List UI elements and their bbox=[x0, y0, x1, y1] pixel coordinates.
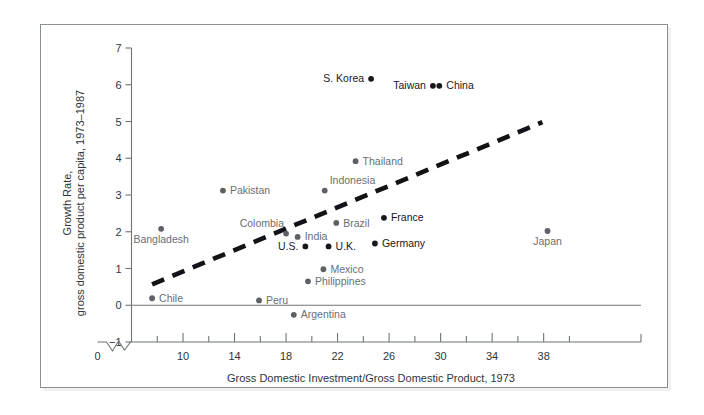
data-point-marker[interactable] bbox=[256, 298, 262, 304]
y-tick-label: 2 bbox=[115, 226, 121, 238]
data-point-marker[interactable] bbox=[295, 234, 301, 240]
y-axis-title-line1: Growth Rate, bbox=[61, 171, 73, 236]
y-tick-label: 0 bbox=[115, 299, 121, 311]
scatter-plot: −10123456701014182226303438Gross Domesti… bbox=[41, 25, 669, 389]
data-point[interactable]: Indonesia bbox=[322, 174, 376, 194]
data-point[interactable]: Mexico bbox=[321, 263, 364, 275]
data-point-label: Argentina bbox=[301, 308, 346, 320]
y-tick-label: 3 bbox=[115, 189, 121, 201]
y-axis-title-line2: gross domestic product per capita, 1973–… bbox=[74, 90, 86, 316]
x-tick-label: 10 bbox=[177, 350, 189, 362]
data-point-label: S. Korea bbox=[323, 72, 364, 84]
data-point-label: Mexico bbox=[330, 263, 363, 275]
data-point[interactable]: Colombia bbox=[240, 217, 289, 237]
data-point-marker[interactable] bbox=[283, 231, 289, 237]
data-point-label: China bbox=[446, 79, 474, 91]
data-point-marker[interactable] bbox=[305, 278, 311, 284]
y-tick-label: 7 bbox=[115, 42, 121, 54]
x-tick-label: 22 bbox=[331, 350, 343, 362]
data-point[interactable]: Thailand bbox=[353, 155, 403, 167]
data-point[interactable]: U.K. bbox=[326, 240, 356, 252]
data-point[interactable]: Pakistan bbox=[220, 184, 270, 196]
data-point-label: France bbox=[391, 211, 424, 223]
x-tick-label: 26 bbox=[383, 350, 395, 362]
data-point-marker[interactable] bbox=[333, 220, 339, 226]
data-point-label: India bbox=[305, 230, 328, 242]
data-point-marker[interactable] bbox=[220, 188, 226, 194]
data-point[interactable]: Philippines bbox=[305, 275, 366, 287]
data-point[interactable]: India bbox=[295, 230, 328, 242]
data-point-label: Taiwan bbox=[393, 79, 426, 91]
data-point-marker[interactable] bbox=[321, 266, 327, 272]
data-point-marker[interactable] bbox=[158, 226, 164, 232]
data-point-marker[interactable] bbox=[326, 244, 332, 250]
x-tick-label: 34 bbox=[486, 350, 498, 362]
data-point-marker[interactable] bbox=[545, 228, 551, 234]
data-point-label: Chile bbox=[159, 292, 183, 304]
y-tick-label: 1 bbox=[115, 263, 121, 275]
data-point[interactable]: Peru bbox=[256, 294, 288, 306]
data-point[interactable]: Taiwan bbox=[393, 79, 436, 91]
data-point-label: Pakistan bbox=[230, 184, 270, 196]
y-tick-label: 6 bbox=[115, 79, 121, 91]
data-point[interactable]: Argentina bbox=[291, 308, 346, 320]
y-tick-label: 5 bbox=[115, 116, 121, 128]
data-point-marker[interactable] bbox=[381, 215, 387, 221]
x-axis-title: Gross Domestic Investment/Gross Domestic… bbox=[227, 372, 515, 384]
x-tick-label: 38 bbox=[538, 350, 550, 362]
figure-frame: −10123456701014182226303438Gross Domesti… bbox=[40, 24, 668, 388]
data-point-label: Peru bbox=[266, 294, 288, 306]
data-point[interactable]: Germany bbox=[372, 237, 426, 249]
data-point-marker[interactable] bbox=[291, 312, 297, 318]
x-tick-label: 18 bbox=[280, 350, 292, 362]
data-point-label: U.K. bbox=[336, 240, 356, 252]
data-point[interactable]: Brazil bbox=[333, 217, 369, 229]
data-point-label: Germany bbox=[382, 237, 426, 249]
data-points-group: S. KoreaTaiwanChinaThailandPakistanIndon… bbox=[133, 72, 562, 320]
data-point-marker[interactable] bbox=[430, 83, 436, 89]
data-point[interactable]: Bangladesh bbox=[133, 226, 189, 245]
data-point-label: Philippines bbox=[315, 275, 366, 287]
data-point-marker[interactable] bbox=[322, 188, 328, 194]
trend-line bbox=[152, 122, 542, 284]
data-point[interactable]: Chile bbox=[149, 292, 183, 304]
data-point-marker[interactable] bbox=[372, 241, 378, 247]
x-tick-label: 14 bbox=[228, 350, 240, 362]
y-tick-label: 4 bbox=[115, 152, 121, 164]
data-point[interactable]: France bbox=[381, 211, 424, 223]
x-origin-label: 0 bbox=[94, 350, 100, 362]
data-point-marker[interactable] bbox=[436, 83, 442, 89]
data-point[interactable]: Japan bbox=[533, 228, 562, 247]
data-point-label: Japan bbox=[533, 235, 562, 247]
data-point-label: Thailand bbox=[363, 155, 403, 167]
data-point-label: Colombia bbox=[240, 217, 285, 229]
x-tick-label: 30 bbox=[434, 350, 446, 362]
scatter-plot-svg: −10123456701014182226303438Gross Domesti… bbox=[41, 25, 669, 389]
y-axis: −101234567 bbox=[109, 42, 132, 348]
data-point-label: U.S. bbox=[278, 240, 298, 252]
data-point-marker[interactable] bbox=[368, 76, 374, 82]
data-point[interactable]: S. Korea bbox=[323, 72, 374, 84]
data-point[interactable]: China bbox=[436, 79, 473, 91]
data-point-marker[interactable] bbox=[353, 158, 359, 164]
data-point-label: Brazil bbox=[343, 217, 369, 229]
data-point-marker[interactable] bbox=[149, 295, 155, 301]
x-axis: 01014182226303438 bbox=[94, 333, 641, 362]
data-point-label: Indonesia bbox=[330, 174, 376, 186]
data-point-marker[interactable] bbox=[302, 244, 308, 250]
data-point-label: Bangladesh bbox=[133, 233, 189, 245]
